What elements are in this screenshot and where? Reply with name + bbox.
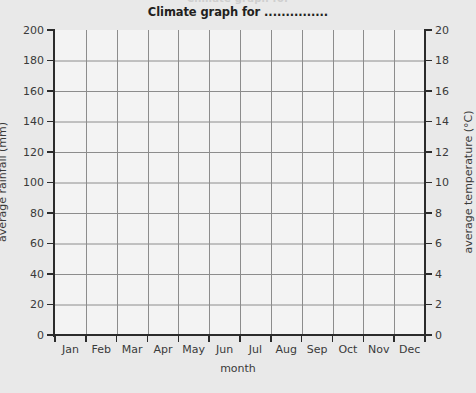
tick-mark-bottom (424, 336, 426, 342)
left-axis-spine (53, 29, 55, 337)
tick-label-left: 100 (23, 177, 44, 188)
tick-mark-right (426, 121, 432, 123)
tick-label-right: 20 (435, 25, 449, 36)
tick-label-left: 60 (30, 238, 44, 249)
tick-label-left: 160 (23, 86, 44, 97)
tick-label-right: 16 (435, 86, 449, 97)
plot-area (55, 30, 425, 335)
tick-mark-bottom (301, 336, 303, 342)
tick-mark-left (47, 121, 53, 123)
tick-mark-bottom (85, 336, 87, 342)
month-label: Jun (209, 344, 240, 355)
month-label: Mar (117, 344, 148, 355)
tick-mark-bottom (54, 336, 56, 342)
month-label: Oct (333, 344, 364, 355)
tick-mark-left (47, 334, 53, 336)
tick-mark-right (426, 60, 432, 62)
tick-mark-left (47, 182, 53, 184)
tick-mark-right (426, 273, 432, 275)
tick-mark-right (426, 29, 432, 31)
grid-lines (55, 30, 425, 335)
tick-mark-bottom (332, 336, 334, 342)
x-axis-title: month (0, 362, 476, 375)
cutoff-header-text: Climate graph for (0, 0, 476, 4)
tick-mark-left (47, 273, 53, 275)
tick-mark-bottom (208, 336, 210, 342)
tick-mark-left (47, 304, 53, 306)
chart-title: Climate graph for ............... (0, 5, 476, 19)
month-label: Jan (55, 344, 86, 355)
month-label: Sep (302, 344, 333, 355)
y-axis-title-left: average rainfall (mm) (0, 122, 9, 242)
month-label: Jul (240, 344, 271, 355)
tick-label-right: 10 (435, 177, 449, 188)
tick-mark-bottom (178, 336, 180, 342)
y-axis-title-right: average temperature (°C) (462, 111, 475, 254)
tick-label-left: 200 (23, 25, 44, 36)
tick-mark-bottom (393, 336, 395, 342)
tick-mark-right (426, 212, 432, 214)
tick-mark-bottom (270, 336, 272, 342)
tick-mark-bottom (239, 336, 241, 342)
tick-label-left: 40 (30, 269, 44, 280)
tick-mark-right (426, 334, 432, 336)
month-label: Dec (394, 344, 425, 355)
y-axis-title-right-text: average temperature (°C) (462, 111, 475, 254)
tick-label-right: 4 (435, 269, 442, 280)
tick-mark-bottom (363, 336, 365, 342)
tick-mark-left (47, 90, 53, 92)
month-label: May (178, 344, 209, 355)
month-label: Apr (148, 344, 179, 355)
tick-label-right: 14 (435, 116, 449, 127)
month-label: Feb (86, 344, 117, 355)
tick-mark-right (426, 151, 432, 153)
tick-mark-bottom (147, 336, 149, 342)
tick-mark-right (426, 90, 432, 92)
tick-label-right: 0 (435, 330, 442, 341)
tick-label-right: 6 (435, 238, 442, 249)
tick-label-left: 140 (23, 116, 44, 127)
tick-mark-right (426, 182, 432, 184)
tick-label-right: 2 (435, 299, 442, 310)
tick-label-left: 80 (30, 208, 44, 219)
tick-mark-left (47, 212, 53, 214)
tick-label-right: 18 (435, 55, 449, 66)
tick-label-left: 0 (37, 330, 44, 341)
tick-label-left: 20 (30, 299, 44, 310)
month-label: Nov (363, 344, 394, 355)
tick-mark-right (426, 304, 432, 306)
tick-mark-left (47, 151, 53, 153)
tick-mark-left (47, 29, 53, 31)
tick-mark-bottom (116, 336, 118, 342)
month-label: Aug (271, 344, 302, 355)
y-axis-title-left-text: average rainfall (mm) (0, 122, 9, 242)
tick-mark-left (47, 243, 53, 245)
tick-label-left: 120 (23, 147, 44, 158)
tick-label-left: 180 (23, 55, 44, 66)
tick-mark-right (426, 243, 432, 245)
tick-label-right: 12 (435, 147, 449, 158)
tick-label-right: 8 (435, 208, 442, 219)
tick-mark-left (47, 60, 53, 62)
